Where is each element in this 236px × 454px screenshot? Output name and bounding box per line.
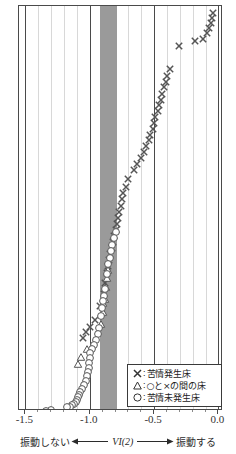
data-point-x [202,29,211,38]
chart-figure: : 苦情発生床 : ○と×の間の床 : 苦情未発生床 -1.5-1.0-0.50… [0,0,236,454]
tick-minor [63,410,64,412]
data-point-circle [87,344,96,353]
data-point-x [79,334,88,343]
data-point-circle [78,384,87,393]
data-point-x [155,101,164,110]
gridline-minor [180,6,181,409]
caption-axis-name: VI(2) [111,436,134,447]
gridline-major [218,6,219,409]
left-arrow-icon [69,437,111,446]
data-point-x [129,165,138,174]
data-point-circle [84,363,93,372]
data-point-x [206,18,215,27]
legend-item-intermediate: : ○と×の間の床 [132,379,218,391]
tick-minor [115,410,116,412]
legend-item-no-complaint: : 苦情未発生床 [132,391,218,403]
gridline-minor [206,6,207,409]
tick-minor [127,410,128,412]
gridline-minor [64,6,65,409]
caption-right-text: 振動する [176,434,215,449]
tick-minor [76,410,77,412]
gridline-minor [141,6,142,409]
data-point-x [119,189,128,198]
triangle-marker-icon [132,381,143,390]
data-point-x [156,95,165,104]
tick-minor [205,410,206,412]
tick-minor [192,410,193,412]
data-point-x [209,8,218,17]
tick-label: -0.5 [144,413,161,425]
data-point-x [161,77,170,86]
tick-minor [37,410,38,412]
axis-tick-labels: -1.5-1.0-0.50.0 [0,413,236,429]
data-point-x [157,89,166,98]
circle-marker-icon [132,393,143,402]
caption-left-text: 振動しない [20,434,69,449]
data-point-x [144,136,153,145]
data-point-x [90,316,99,325]
data-point-triangle [74,359,83,368]
shaded-band [100,6,117,409]
data-point-x [208,14,217,23]
gridline-minor [38,6,39,409]
data-point-x [174,42,183,51]
gridline-minor [51,6,52,409]
axis-caption: 振動しない VI(2) 振動する [0,431,236,451]
gridline-minor [193,6,194,409]
gridline-major [154,6,155,409]
data-point-x [142,142,151,151]
gridline-major [25,6,26,409]
data-point-circle [71,397,80,406]
data-point-x [116,201,125,210]
data-point-circle [65,402,74,410]
tick-minor [179,410,180,412]
data-point-circle [83,367,92,376]
data-point-x [148,124,157,133]
legend-item-complaint: : 苦情発生床 [132,367,218,379]
data-point-x [117,195,126,204]
x-marker-icon [132,369,143,378]
data-point-circle [91,335,100,344]
right-arrow-icon [134,437,176,446]
tick-minor [166,410,167,412]
tick-label: 0.0 [211,413,225,425]
legend: : 苦情発生床 : ○と×の間の床 : 苦情未発生床 [127,364,222,407]
data-point-circle [74,390,83,399]
tick-minor [50,410,51,412]
data-point-circle [80,380,89,389]
tick-label: -1.0 [80,413,97,425]
tick-minor [102,410,103,412]
gridline-minor [128,6,129,409]
data-point-x [151,112,160,121]
data-point-circle [67,401,76,410]
tick-minor [140,410,141,412]
tick-label: -1.5 [16,413,33,425]
gridline-minor [77,6,78,409]
plot-area [18,5,222,410]
gridline-major [90,6,91,409]
legend-label-2: 苦情未発生床 [147,391,200,404]
gridline-minor [167,6,168,409]
